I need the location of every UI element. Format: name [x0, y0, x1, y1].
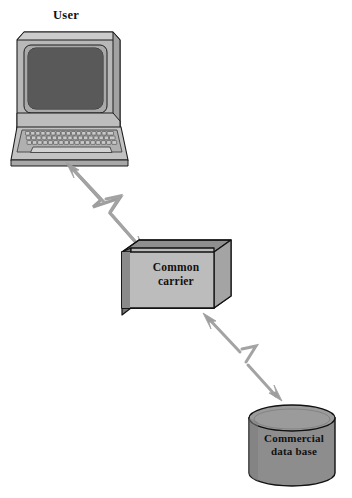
arrowhead-to-database	[269, 385, 282, 401]
keyboard-row-2	[26, 136, 115, 140]
diagram-canvas	[0, 0, 352, 498]
box-3d-icon	[122, 240, 231, 315]
database-cylinder-icon	[249, 405, 335, 486]
connector-user-to-carrier	[66, 162, 146, 252]
keyboard-row-3	[27, 141, 117, 145]
connector-carrier-to-database	[203, 313, 282, 401]
computer-terminal-icon	[11, 32, 128, 166]
keyboard-row-1	[26, 132, 114, 136]
